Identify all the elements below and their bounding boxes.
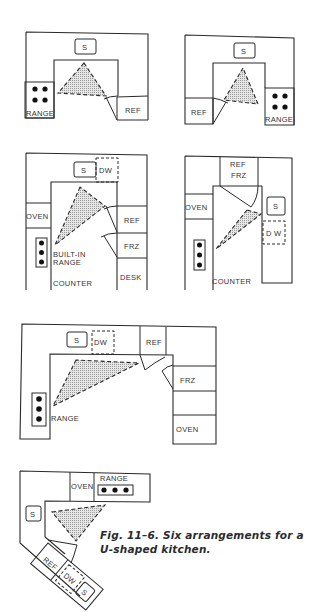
kitchen-diagrams: S RANGE REF S REF RANGE xyxy=(0,0,309,612)
burner-icon xyxy=(39,241,44,246)
door-arc-icon xyxy=(145,357,165,370)
burner-icon xyxy=(36,406,42,412)
counter-label: COUNTER xyxy=(53,279,92,288)
figure-caption: Fig. 11–6. Six arrangements for a U-shap… xyxy=(100,528,309,556)
burner-icon xyxy=(32,86,37,91)
layout-2: S REF RANGE xyxy=(185,35,294,125)
frz-label: FRZ xyxy=(231,171,247,180)
burner-icon xyxy=(272,104,277,109)
ref-label: REF xyxy=(230,160,246,169)
work-triangle xyxy=(52,505,105,541)
door-arc-icon xyxy=(251,186,258,207)
burner-icon xyxy=(197,263,202,268)
dw-label: DW xyxy=(94,338,108,347)
sink-label: S xyxy=(82,43,87,52)
door-swing-icon xyxy=(213,102,226,124)
burner-icon xyxy=(42,97,47,102)
range-label: RANGE xyxy=(51,414,79,423)
burner-icon xyxy=(282,93,287,98)
dw-label: D W xyxy=(266,229,282,238)
burner-icon xyxy=(272,93,277,98)
burner-icon xyxy=(39,260,44,265)
range-label: RANGE xyxy=(26,109,54,118)
sink-label: S xyxy=(241,47,246,56)
door-arc-icon xyxy=(71,545,77,563)
door-swing-icon xyxy=(104,236,117,257)
diagonal-counter: REF DW S xyxy=(31,543,104,610)
door-arc-icon xyxy=(101,233,117,237)
dw-label: DW xyxy=(99,166,113,175)
sink-label: S xyxy=(81,166,86,175)
ref-label: REF xyxy=(125,106,141,115)
burner-icon xyxy=(32,97,37,102)
door-swing-icon xyxy=(220,186,251,207)
sink-label: S xyxy=(30,510,35,519)
door-swing-icon xyxy=(140,355,145,370)
ref-label: REF xyxy=(124,216,140,225)
oven-label: OVEN xyxy=(71,482,93,491)
caption-line-1: Fig. 11–6. Six arrangements for a xyxy=(100,528,309,542)
work-triangle xyxy=(224,68,258,104)
layout-1: S RANGE REF xyxy=(25,32,148,120)
burner-icon xyxy=(39,250,44,255)
burner-icon xyxy=(197,253,202,258)
dw-label: DW xyxy=(62,571,78,587)
oven-label: OVEN xyxy=(176,425,198,434)
work-triangle xyxy=(58,63,106,96)
layout-3: S DW OVEN BUILT-IN RANGE COUNTER REF FRZ… xyxy=(26,153,147,290)
work-triangle xyxy=(216,210,261,249)
ref-label: REF xyxy=(146,338,162,347)
sink-label: S xyxy=(74,336,79,345)
layout-5: S DW REF FRZ OVEN RANGE xyxy=(20,324,216,444)
frz-label: FRZ xyxy=(180,376,196,385)
desk-label: DESK xyxy=(120,273,142,282)
burner-icon xyxy=(112,487,117,492)
range-label: RANGE xyxy=(265,115,293,124)
burner-icon xyxy=(42,86,47,91)
burner-icon xyxy=(282,104,287,109)
builtin-range-label: RANGE xyxy=(53,258,81,267)
door-swing-icon xyxy=(106,206,117,232)
frz-label: FRZ xyxy=(124,242,140,251)
burner-icon xyxy=(36,416,42,422)
layout-4: REF FRZ OVEN COUNTER S D W xyxy=(185,156,292,290)
burner-icon xyxy=(123,487,128,492)
burner-icon xyxy=(101,487,106,492)
door-swing-icon xyxy=(48,540,77,545)
door-swing-icon xyxy=(162,371,173,389)
burner-icon xyxy=(36,396,42,402)
work-triangle xyxy=(55,187,105,245)
ref-label: REF xyxy=(191,108,207,117)
door-swing-icon xyxy=(106,97,117,120)
caption-line-2: U-shaped kitchen. xyxy=(100,542,309,556)
oven-label: OVEN xyxy=(185,203,207,212)
range-label: RANGE xyxy=(100,474,128,483)
appliance-dividers xyxy=(173,366,216,415)
counter-label: COUNTER xyxy=(212,277,251,286)
work-triangle xyxy=(53,360,139,406)
burner-icon xyxy=(197,243,202,248)
sink-label: S xyxy=(79,587,89,597)
door-arc-icon xyxy=(162,365,173,371)
sink-label: S xyxy=(273,202,278,211)
oven-label: OVEN xyxy=(26,212,48,221)
